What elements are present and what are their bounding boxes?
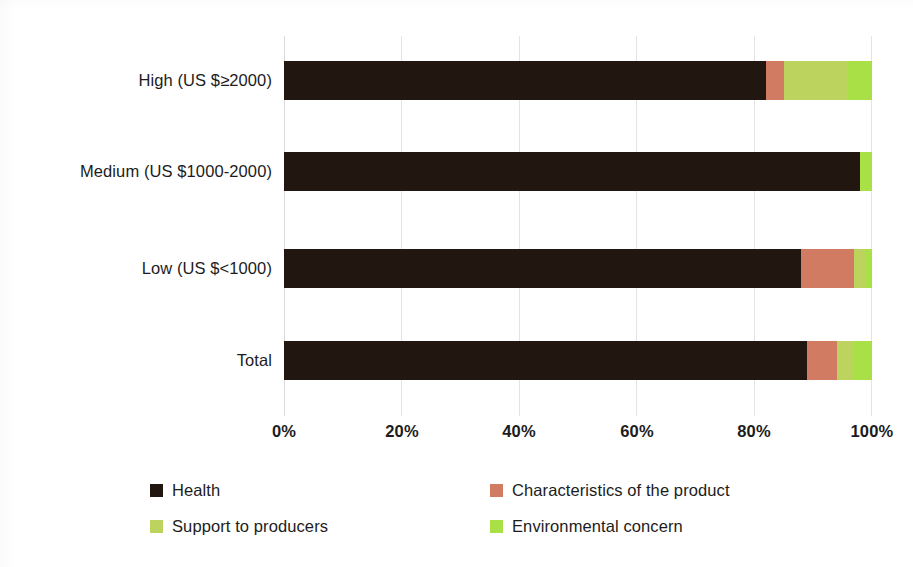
legend-item-characteristics[interactable]: Characteristics of the product — [490, 481, 730, 500]
bar-segment-health[interactable] — [284, 152, 860, 191]
x-tick-40: 40% — [484, 422, 554, 441]
legend-swatch-environmental-icon — [490, 520, 503, 533]
bar-segment-health[interactable] — [284, 341, 807, 380]
plot-area — [284, 36, 872, 416]
legend-swatch-support-icon — [150, 520, 163, 533]
category-label-total: Total — [0, 351, 272, 370]
legend-label-support: Support to producers — [172, 517, 328, 536]
legend-label-environmental: Environmental concern — [512, 517, 683, 536]
bar-segment-characteristics[interactable] — [807, 341, 836, 380]
bar-segment-characteristics[interactable] — [766, 61, 784, 100]
x-tick-20: 20% — [367, 422, 437, 441]
x-tick-80: 80% — [719, 422, 789, 441]
bar-row[interactable] — [284, 61, 872, 100]
bar-segment-health[interactable] — [284, 249, 801, 288]
bar-segment-support[interactable] — [784, 61, 849, 100]
bar-segment-environmental[interactable] — [854, 341, 872, 380]
bar-segment-environmental[interactable] — [860, 152, 872, 191]
chart-legend: Health Characteristics of the product Su… — [150, 472, 870, 544]
bar-segment-health[interactable] — [284, 61, 766, 100]
legend-label-characteristics: Characteristics of the product — [512, 481, 730, 500]
legend-item-health[interactable]: Health — [150, 481, 490, 500]
bar-row[interactable] — [284, 249, 872, 288]
bar-segment-environmental[interactable] — [866, 249, 872, 288]
stacked-bar-chart: High (US $≥2000) Medium (US $1000-2000) … — [0, 0, 913, 567]
x-tick-100: 100% — [837, 422, 907, 441]
legend-item-environmental[interactable]: Environmental concern — [490, 517, 683, 536]
category-label-high: High (US $≥2000) — [0, 71, 272, 90]
x-tick-60: 60% — [602, 422, 672, 441]
category-label-medium: Medium (US $1000-2000) — [0, 162, 272, 181]
category-label-low: Low (US $<1000) — [0, 259, 272, 278]
legend-row: Support to producers Environmental conce… — [150, 508, 870, 544]
x-tick-0: 0% — [249, 422, 319, 441]
legend-item-support[interactable]: Support to producers — [150, 517, 490, 536]
bar-segment-support[interactable] — [837, 341, 855, 380]
legend-row: Health Characteristics of the product — [150, 472, 870, 508]
bar-row[interactable] — [284, 152, 872, 191]
legend-swatch-characteristics-icon — [490, 484, 503, 497]
legend-label-health: Health — [172, 481, 220, 500]
bar-segment-environmental[interactable] — [848, 61, 872, 100]
bar-segment-characteristics[interactable] — [801, 249, 854, 288]
bar-segment-support[interactable] — [854, 249, 866, 288]
legend-swatch-health-icon — [150, 484, 163, 497]
bar-row[interactable] — [284, 341, 872, 380]
